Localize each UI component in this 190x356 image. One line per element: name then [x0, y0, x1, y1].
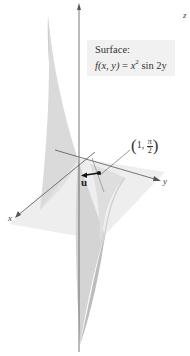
- point-marker: [97, 171, 101, 175]
- caption-heading: Surface:: [95, 43, 175, 56]
- z-axis-arrowhead: [77, 3, 81, 10]
- caption-function: f(x, y) = x2 sin 2y: [95, 56, 175, 72]
- function-rest: sin 2y: [139, 60, 167, 71]
- vector-label: u: [81, 176, 87, 188]
- point-y-denominator: 2: [148, 146, 152, 155]
- point-x: 1: [137, 139, 142, 150]
- y-axis-label: y: [163, 176, 167, 186]
- x-axis-label: x: [8, 213, 12, 223]
- point-label: (1, π2): [131, 136, 158, 156]
- surface-caption: Surface: f(x, y) = x2 sin 2y: [87, 40, 175, 76]
- equals-sign: =: [119, 60, 130, 71]
- z-axis-label: z: [183, 10, 187, 20]
- function-lhs: f(x, y): [95, 60, 119, 71]
- close-paren: ): [153, 136, 159, 155]
